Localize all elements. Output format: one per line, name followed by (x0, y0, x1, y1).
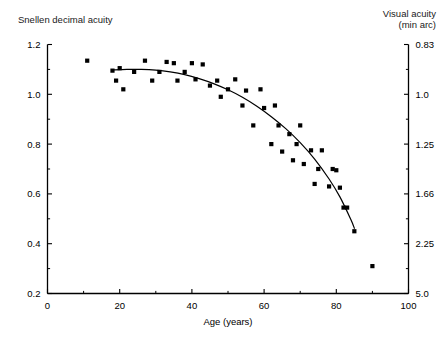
data-point (287, 132, 291, 136)
data-point (118, 66, 122, 70)
fit-curve (112, 69, 354, 228)
data-point (316, 167, 320, 171)
data-point (226, 87, 230, 91)
data-point (309, 148, 313, 152)
data-point (190, 61, 194, 65)
y-tick-label: 0.8 (27, 139, 40, 150)
data-point (294, 142, 298, 146)
y-tick-label: 0.2 (27, 288, 40, 299)
data-point (193, 77, 197, 81)
data-point (240, 103, 244, 107)
data-point (327, 184, 331, 188)
y2-tick-label: 1.66 (416, 188, 435, 199)
data-point (201, 62, 205, 66)
x-tick-label: 20 (114, 300, 125, 311)
data-point (276, 123, 280, 127)
x-tick-label: 40 (187, 300, 198, 311)
data-point (280, 149, 284, 153)
data-point (345, 206, 349, 210)
data-point (273, 103, 277, 107)
data-point (172, 61, 176, 65)
data-series-group (85, 59, 374, 269)
data-point (121, 87, 125, 91)
y-tick-label: 1.0 (27, 89, 40, 100)
left-axis-title: Snellen decimal acuity (18, 14, 113, 25)
data-point (269, 142, 273, 146)
y-tick-label: 0.6 (27, 188, 40, 199)
x-tick-label: 100 (401, 300, 417, 311)
data-point (132, 70, 136, 74)
axis-labels-group: 0.20.40.60.81.01.20.831.01.251.662.255.0… (27, 39, 434, 327)
data-point (175, 79, 179, 83)
axes-group (48, 45, 409, 294)
x-axis-title: Age (years) (203, 316, 252, 327)
y-tick-label: 0.4 (27, 238, 40, 249)
data-point (338, 186, 342, 190)
data-point (233, 77, 237, 81)
data-point (320, 148, 324, 152)
data-point (165, 60, 169, 64)
data-point (215, 79, 219, 83)
data-point (157, 70, 161, 74)
data-point (262, 106, 266, 110)
y-tick-label: 1.2 (27, 39, 40, 50)
right-axis-title: Visual acuity (min arc) (383, 8, 436, 30)
data-point (244, 88, 248, 92)
right-axis-title-line1: Visual acuity (383, 8, 436, 19)
y2-tick-label: 1.25 (416, 139, 435, 150)
data-point (85, 59, 89, 63)
x-tick-label: 0 (45, 300, 50, 311)
data-point (150, 79, 154, 83)
data-point (208, 83, 212, 87)
data-point (251, 123, 255, 127)
y2-tick-label: 2.25 (416, 238, 435, 249)
data-point (219, 95, 223, 99)
data-point (291, 158, 295, 162)
chart-container: Snellen decimal acuity Visual acuity (mi… (0, 0, 445, 341)
y2-tick-label: 0.83 (416, 39, 435, 50)
data-point (183, 70, 187, 74)
data-point (341, 206, 345, 210)
x-tick-label: 60 (259, 300, 270, 311)
data-point (331, 167, 335, 171)
right-axis-title-line2: (min arc) (383, 19, 436, 30)
data-point (334, 168, 338, 172)
data-point (114, 79, 118, 83)
data-point (302, 162, 306, 166)
data-point (143, 59, 147, 63)
data-point (298, 123, 302, 127)
y2-tick-label: 5.0 (416, 288, 429, 299)
data-point (313, 182, 317, 186)
x-tick-label: 80 (331, 300, 342, 311)
data-point (110, 69, 114, 73)
scatter-plot: 0.20.40.60.81.01.20.831.01.251.662.255.0… (0, 0, 445, 341)
data-point (370, 264, 374, 268)
data-point (352, 229, 356, 233)
y2-tick-label: 1.0 (416, 89, 429, 100)
data-point (258, 87, 262, 91)
